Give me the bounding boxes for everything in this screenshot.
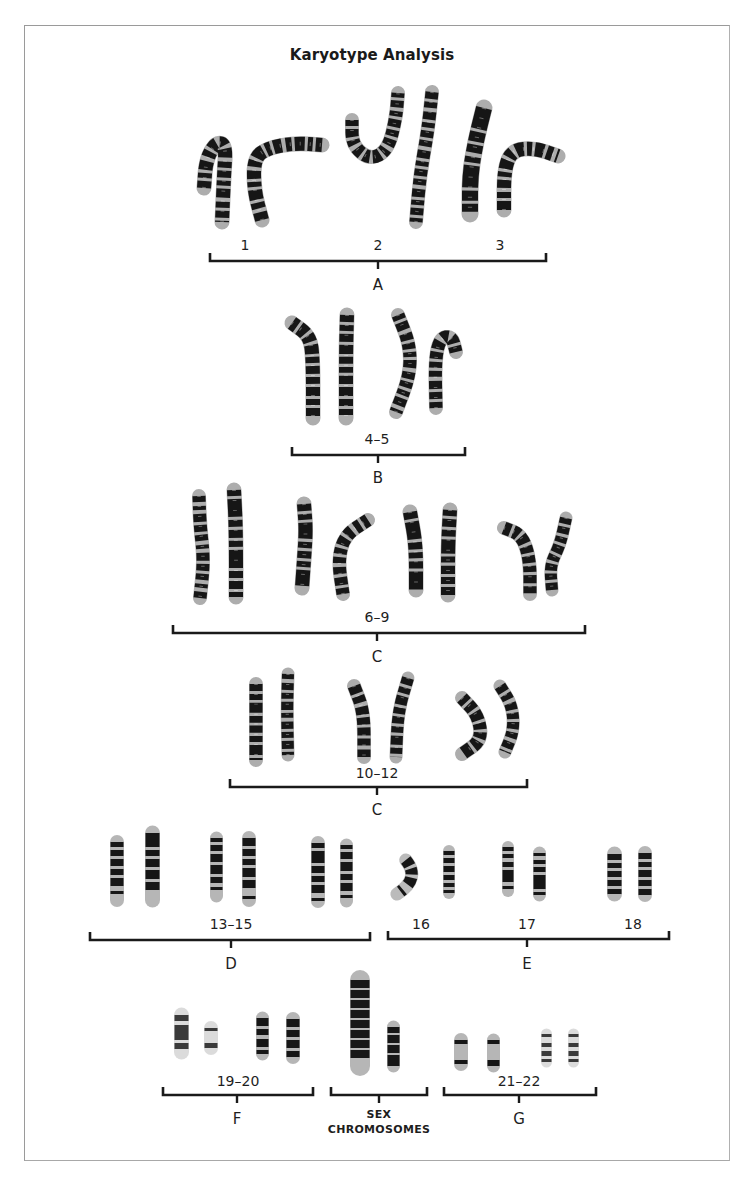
chromosome-12a bbox=[462, 698, 480, 754]
group-label-f: F bbox=[233, 1111, 242, 1127]
group-label-d: D bbox=[225, 956, 237, 972]
chromosome-7b bbox=[339, 520, 368, 594]
chromosome-5a bbox=[396, 315, 410, 412]
chromosome-number-label: 10–12 bbox=[356, 765, 399, 781]
bracket-layer bbox=[90, 253, 669, 1103]
chromosome-9b bbox=[551, 518, 566, 590]
bracket-c2 bbox=[230, 779, 527, 795]
bracket-e bbox=[388, 931, 669, 947]
chromosome-number-label: 4–5 bbox=[365, 431, 390, 447]
karyotype-art bbox=[0, 0, 744, 1186]
chromosome-11a bbox=[354, 686, 364, 757]
chromosome-4b bbox=[346, 315, 347, 418]
chromosome-11b bbox=[396, 678, 408, 757]
chromosome-3b bbox=[504, 149, 558, 210]
chromosome-number-label: 16 bbox=[412, 916, 430, 932]
bracket-f bbox=[163, 1087, 313, 1103]
chromosome-number-label: 13–15 bbox=[210, 916, 253, 932]
bracket-d bbox=[90, 932, 370, 948]
group-label-a: A bbox=[373, 277, 383, 293]
chromosome-number-label: 3 bbox=[496, 237, 505, 253]
bracket-sex bbox=[331, 1087, 427, 1103]
chromosome-16a bbox=[397, 860, 412, 894]
chromosome-4a bbox=[292, 323, 313, 418]
chromosome-6a bbox=[199, 496, 203, 598]
group-label-sex-chromosomes: SEX bbox=[367, 1108, 392, 1121]
chromosome-12b bbox=[500, 686, 513, 752]
chromosome-1a bbox=[204, 143, 225, 222]
bracket-c1 bbox=[173, 625, 585, 641]
chromosome-9a bbox=[504, 528, 530, 594]
chromosome-2a bbox=[352, 93, 398, 157]
group-label-c1: C bbox=[372, 649, 382, 665]
chromosome-1b bbox=[254, 144, 322, 220]
bracket-a bbox=[210, 253, 546, 269]
chromosome-number-label: 19–20 bbox=[217, 1073, 260, 1089]
chromosome-7a bbox=[302, 504, 306, 588]
chromosome-number-label: 17 bbox=[518, 916, 536, 932]
chromosome-2b bbox=[416, 92, 432, 222]
group-label-e: E bbox=[522, 956, 531, 972]
group-label-g: G bbox=[513, 1111, 525, 1127]
chromosome-number-label: 6–9 bbox=[365, 609, 390, 625]
chromosome-6b bbox=[234, 490, 236, 597]
chromosome-number-label: 21–22 bbox=[498, 1073, 541, 1089]
chromosome-number-label: 18 bbox=[624, 916, 642, 932]
chromosome-number-label: 2 bbox=[374, 237, 383, 253]
group-label-sex-chromosomes: CHROMOSOMES bbox=[328, 1123, 430, 1136]
chromosome-5b bbox=[435, 337, 456, 408]
chromosome-8a bbox=[410, 512, 416, 590]
group-label-c2: C bbox=[372, 802, 382, 818]
group-label-b: B bbox=[373, 470, 383, 486]
chromosome-number-label: 1 bbox=[241, 237, 250, 253]
bracket-b bbox=[292, 447, 465, 463]
bracket-g bbox=[444, 1087, 596, 1103]
chromosome-8b bbox=[448, 510, 450, 595]
chromosome-10b bbox=[287, 674, 288, 755]
chromosome-3a bbox=[470, 108, 484, 214]
